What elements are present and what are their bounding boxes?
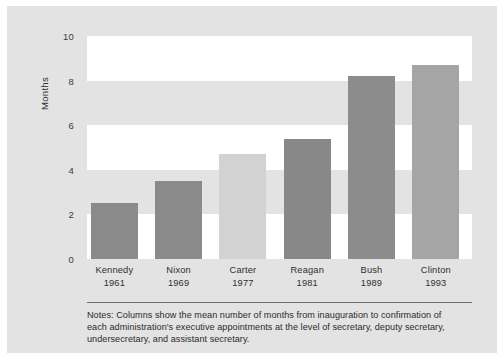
y-tick-8: 8 [69, 76, 74, 87]
x-label-name: Reagan [290, 265, 323, 275]
x-label-nixon: Nixon 1969 [155, 264, 202, 289]
notes-line-1: Notes: Columns show the mean number of m… [87, 309, 483, 321]
x-label-year: 1961 [91, 277, 138, 290]
notes-divider [87, 302, 472, 303]
bar-slot-kennedy [91, 36, 138, 259]
chart-figure: 0 2 4 6 8 10 Months [7, 6, 497, 353]
x-label-year: 1977 [219, 277, 266, 290]
bar-series [87, 36, 472, 259]
x-label-year: 1989 [348, 277, 395, 290]
bar-nixon[interactable] [155, 181, 202, 259]
x-label-kennedy: Kennedy 1961 [91, 264, 138, 289]
bar-slot-bush [348, 36, 395, 259]
bar-slot-reagan [284, 36, 331, 259]
bar-slot-carter [219, 36, 266, 259]
bar-clinton[interactable] [412, 65, 459, 259]
x-label-bush: Bush 1989 [348, 264, 395, 289]
bar-slot-clinton [412, 36, 459, 259]
x-label-name: Clinton [421, 265, 451, 275]
x-label-name: Carter [230, 265, 257, 275]
plot-area [87, 36, 472, 259]
notes-block: Notes: Columns show the mean number of m… [87, 309, 483, 346]
bar-slot-nixon [155, 36, 202, 259]
y-axis-ticks: 0 2 4 6 8 10 [7, 6, 87, 289]
notes-line-3: undersecretary, and assistant secretary. [87, 333, 483, 345]
notes-line-2: each administration's executive appointm… [87, 321, 483, 333]
x-label-name: Bush [361, 265, 383, 275]
y-tick-4: 4 [69, 165, 74, 176]
y-axis-title: Months [39, 77, 50, 110]
x-label-year: 1969 [155, 277, 202, 290]
bar-reagan[interactable] [284, 139, 331, 259]
x-axis-labels: Kennedy 1961 Nixon 1969 Carter 1977 Reag… [87, 264, 472, 296]
y-tick-0: 0 [69, 254, 74, 265]
x-label-name: Kennedy [95, 265, 133, 275]
x-label-carter: Carter 1977 [219, 264, 266, 289]
y-tick-6: 6 [69, 120, 74, 131]
bar-bush[interactable] [348, 76, 395, 259]
x-label-year: 1993 [412, 277, 459, 290]
x-label-year: 1981 [284, 277, 331, 290]
y-tick-10: 10 [63, 31, 74, 42]
bar-kennedy[interactable] [91, 203, 138, 259]
x-label-reagan: Reagan 1981 [284, 264, 331, 289]
y-tick-2: 2 [69, 209, 74, 220]
x-label-name: Nixon [166, 265, 191, 275]
bar-carter[interactable] [219, 154, 266, 259]
x-label-clinton: Clinton 1993 [412, 264, 459, 289]
